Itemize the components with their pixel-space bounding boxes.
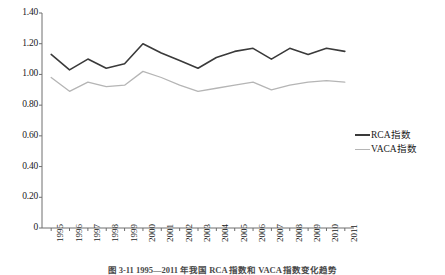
legend-line-swatch-rca-icon	[355, 134, 370, 136]
legend-label-vaca: VACA指数	[371, 144, 417, 155]
series-lines	[51, 44, 345, 92]
series-line	[51, 71, 345, 91]
figure-caption: 图 3-11 1995—2011 年我国 RCA 指数和 VACA 指数变化趋势	[0, 266, 445, 275]
chart-legend: RCA指数 VACA指数	[355, 128, 445, 156]
legend-item-rca: RCA指数	[355, 128, 445, 142]
series-line	[51, 44, 345, 70]
legend-label-rca: RCA指数	[371, 130, 411, 141]
axes-group	[42, 13, 354, 228]
legend-item-vaca: VACA指数	[355, 142, 445, 156]
legend-line-swatch-vaca-icon	[355, 149, 370, 150]
